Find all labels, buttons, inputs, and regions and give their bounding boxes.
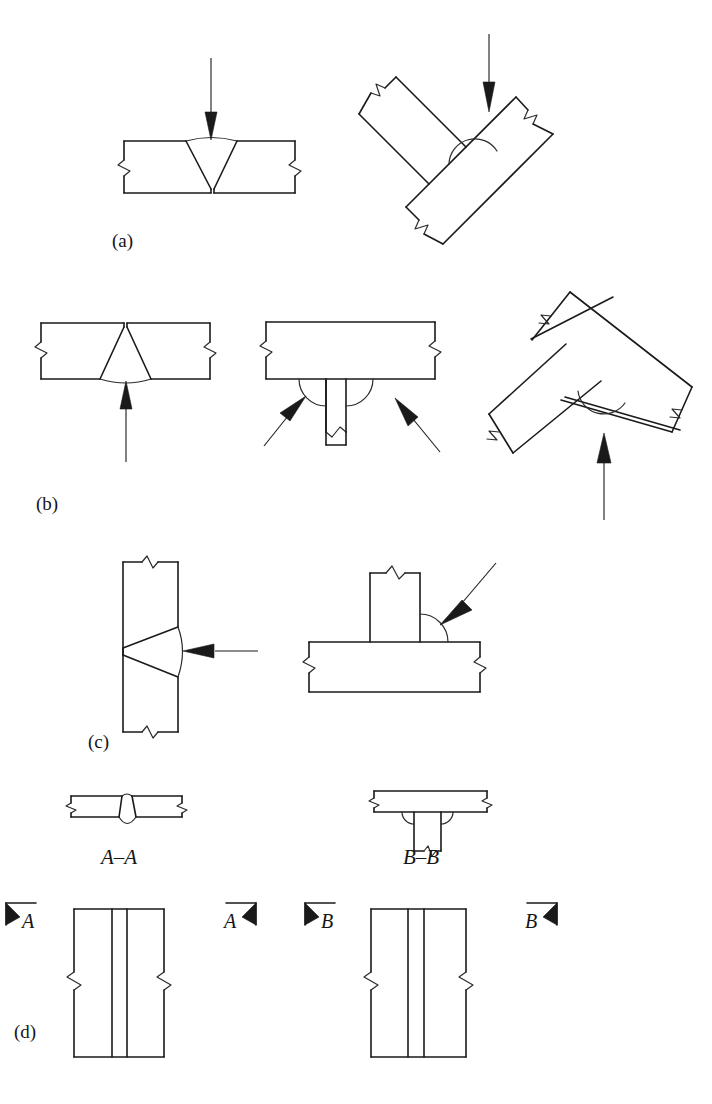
panel-d-right	[364, 909, 473, 1057]
panel-b-right	[487, 292, 692, 520]
panel-b-middle	[260, 322, 441, 452]
section-marker-b-left-label: B	[321, 910, 333, 932]
panel-c-left	[123, 556, 258, 738]
panel-b-left	[35, 323, 216, 462]
figure-canvas: (a)	[0, 0, 712, 1104]
panel-a-left	[118, 58, 301, 193]
row-label-c: (c)	[88, 731, 109, 753]
panel-a-right	[359, 34, 553, 244]
welding-figure: (a)	[0, 0, 712, 1104]
section-marker-a-left-label: A	[20, 910, 35, 932]
section-marker-b-right-label: B	[525, 910, 537, 932]
panel-c-right	[303, 563, 496, 692]
section-marker-a-right-label: A	[222, 910, 237, 932]
section-label-b-b: B–B	[403, 845, 439, 869]
row-label-a: (a)	[112, 230, 133, 252]
row-label-d: (d)	[14, 1021, 36, 1043]
row-label-b: (b)	[36, 493, 58, 515]
section-label-a-a: A–A	[99, 845, 137, 869]
section-view-a-a	[66, 794, 187, 824]
panel-d-left	[67, 909, 171, 1057]
